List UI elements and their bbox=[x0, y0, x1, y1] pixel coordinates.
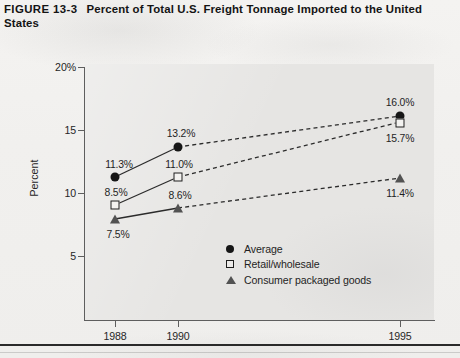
data-point-cpg-1988[interactable] bbox=[110, 215, 120, 224]
data-point-cpg-1995[interactable] bbox=[395, 174, 405, 183]
footer-rule-secondary bbox=[0, 352, 460, 353]
point-label-average-1990: 13.2% bbox=[167, 128, 195, 139]
point-label-cpg-1995: 11.4% bbox=[386, 188, 414, 199]
y-tick-label-20: 20% bbox=[40, 61, 76, 73]
legend-label-retail: Retail/wholesale bbox=[244, 258, 320, 270]
legend-item-retail[interactable]: Retail/wholesale bbox=[226, 257, 371, 273]
legend-label-cpg: Consumer packaged goods bbox=[244, 274, 371, 286]
chart-figure: 20% 15 10 5 Percent 1988 1990 1995 11.3%… bbox=[0, 0, 460, 358]
y-tick-15 bbox=[78, 130, 85, 131]
data-point-retail-1995[interactable] bbox=[396, 119, 405, 128]
y-tick-5 bbox=[78, 256, 85, 257]
point-label-average-1995: 16.0% bbox=[386, 97, 414, 108]
legend-item-average[interactable]: Average bbox=[226, 241, 371, 257]
x-tick-label-1995: 1995 bbox=[372, 330, 428, 342]
y-tick-label-5: 5 bbox=[40, 250, 76, 262]
x-tick-label-1988: 1988 bbox=[87, 330, 143, 342]
point-label-retail-1990: 11.0% bbox=[165, 159, 193, 170]
y-tick-label-15: 15 bbox=[40, 124, 76, 136]
x-tick-1988 bbox=[115, 320, 116, 327]
x-tick-1990 bbox=[178, 320, 179, 327]
line-cpg-1988-1990 bbox=[115, 208, 178, 219]
point-label-retail-1995: 15.7% bbox=[386, 133, 414, 144]
data-point-average-1990[interactable] bbox=[174, 143, 183, 152]
data-point-retail-1990[interactable] bbox=[174, 173, 183, 182]
y-axis-title: Percent bbox=[28, 138, 40, 218]
y-tick-20 bbox=[78, 67, 85, 68]
y-tick-label-10: 10 bbox=[40, 187, 76, 199]
data-point-cpg-1990[interactable] bbox=[173, 204, 183, 213]
filled-triangle-icon bbox=[226, 276, 240, 284]
x-tick-label-1990: 1990 bbox=[150, 330, 206, 342]
open-square-icon bbox=[226, 260, 240, 268]
point-label-cpg-1990: 8.6% bbox=[169, 190, 192, 201]
point-label-average-1988: 11.3% bbox=[105, 159, 133, 170]
point-label-retail-1988: 8.5% bbox=[105, 187, 128, 198]
series-lines bbox=[0, 0, 460, 358]
x-tick-1995 bbox=[400, 320, 401, 327]
legend-item-cpg[interactable]: Consumer packaged goods bbox=[226, 272, 371, 288]
footer-rule bbox=[0, 344, 460, 346]
filled-circle-icon bbox=[226, 245, 240, 253]
line-cpg-1990-1995 bbox=[178, 178, 400, 208]
legend-label-average: Average bbox=[244, 243, 283, 255]
chart-legend: Average Retail/wholesale Consumer packag… bbox=[226, 241, 371, 288]
data-point-retail-1988[interactable] bbox=[111, 201, 120, 210]
data-point-average-1988[interactable] bbox=[111, 173, 120, 182]
point-label-cpg-1988: 7.5% bbox=[107, 229, 130, 240]
x-axis-line bbox=[84, 320, 435, 321]
line-average-1990-1995 bbox=[178, 116, 400, 147]
y-tick-10 bbox=[78, 193, 85, 194]
line-retail-1990-1995 bbox=[178, 122, 400, 177]
